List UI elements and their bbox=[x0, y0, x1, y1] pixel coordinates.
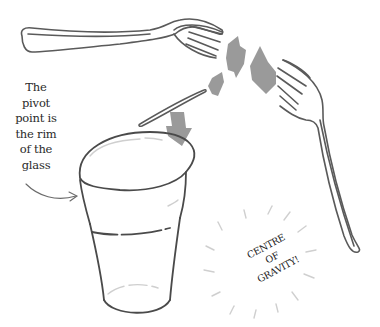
caption-line: pivot bbox=[8, 96, 64, 112]
pointer-arrow-icon bbox=[26, 184, 77, 201]
caption-line: the rim bbox=[8, 127, 64, 143]
caption-line: glass bbox=[8, 158, 64, 174]
right-fork-icon bbox=[277, 60, 360, 252]
caption-line: of the bbox=[8, 142, 64, 158]
glass-highlight-icon bbox=[90, 138, 178, 294]
glass-icon bbox=[80, 132, 194, 313]
caption-line: point is bbox=[8, 111, 64, 127]
caption-line: The bbox=[8, 80, 64, 96]
balance-arrows-icon bbox=[166, 36, 276, 146]
left-fork-icon bbox=[21, 19, 222, 58]
pivot-caption: The pivot point is the rim of the glass bbox=[8, 80, 64, 173]
